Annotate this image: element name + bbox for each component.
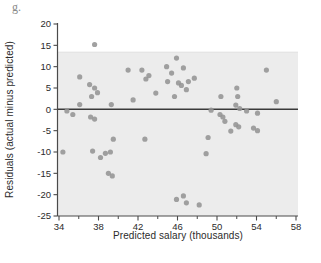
data-point <box>89 94 94 99</box>
data-point <box>255 128 260 133</box>
data-point <box>108 149 113 154</box>
data-point <box>192 76 197 81</box>
tick-label: 15 <box>40 40 51 51</box>
data-point <box>70 112 75 117</box>
data-point <box>92 117 97 122</box>
tick-label: -20 <box>37 189 51 200</box>
data-point <box>206 135 211 140</box>
data-point <box>92 85 97 90</box>
tick-label: -5 <box>43 125 51 136</box>
residual-scatter-plot: 20151050-5-10-15-20-2534384246505458 <box>0 0 321 263</box>
data-point <box>77 74 82 79</box>
data-point <box>103 151 108 156</box>
plot-shaded-band <box>58 52 299 216</box>
data-point <box>131 97 136 102</box>
tick-label: -10 <box>37 146 51 157</box>
data-point <box>142 137 147 142</box>
data-point <box>109 102 114 107</box>
tick-label: -25 <box>37 210 51 221</box>
data-point <box>111 137 116 142</box>
data-point <box>139 68 144 73</box>
data-point <box>98 155 103 160</box>
data-point <box>197 202 202 207</box>
data-point <box>209 108 214 113</box>
figure-panel: g. 20151050-5-10-15-20-2534384246505458 … <box>0 0 321 263</box>
data-point <box>234 85 239 90</box>
data-point <box>174 56 179 61</box>
tick-label: -15 <box>37 168 51 179</box>
data-point <box>164 64 169 69</box>
data-point <box>237 106 242 111</box>
tick-label: 0 <box>46 104 51 115</box>
data-point <box>169 71 174 76</box>
data-point <box>174 197 179 202</box>
data-point <box>77 102 82 107</box>
data-point <box>92 42 97 47</box>
data-point <box>235 94 240 99</box>
data-point <box>110 173 115 178</box>
data-point <box>264 68 269 73</box>
data-point <box>90 149 95 154</box>
data-point <box>184 87 189 92</box>
data-point <box>204 151 209 156</box>
data-point <box>95 90 100 95</box>
data-point <box>146 73 151 78</box>
data-point <box>126 68 131 73</box>
data-point <box>236 124 241 129</box>
y-axis-label: Residuals (actual minus predicted) <box>4 20 17 220</box>
data-point <box>218 94 223 99</box>
data-point <box>64 108 69 113</box>
tick-label: 20 <box>40 18 51 29</box>
data-point <box>60 149 65 154</box>
data-point <box>153 91 158 96</box>
data-point <box>274 99 279 104</box>
data-point <box>233 103 238 108</box>
data-point <box>244 108 249 113</box>
tick-label: 10 <box>40 61 51 72</box>
tick-label: 5 <box>46 82 51 93</box>
data-point <box>172 94 177 99</box>
data-point <box>179 83 184 88</box>
data-point <box>184 200 189 205</box>
data-point <box>87 82 92 87</box>
x-axis-label: Predicted salary (thousands) <box>58 230 298 241</box>
data-point <box>165 79 170 84</box>
data-point <box>222 119 227 124</box>
data-point <box>181 193 186 198</box>
data-point <box>181 65 186 70</box>
data-point <box>228 129 233 134</box>
data-point <box>186 79 191 84</box>
data-point <box>255 111 260 116</box>
